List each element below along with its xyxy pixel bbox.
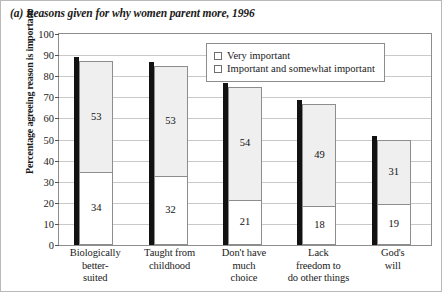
chart-legend: Very important Important and somewhat im…	[206, 43, 385, 82]
bar-stack: 5421	[228, 87, 262, 245]
figure-panel: (a) Reasons given for why women parent m…	[0, 0, 442, 292]
bar-value-label: 32	[165, 205, 176, 216]
bar-stack: 3119	[377, 140, 411, 246]
bar-value-label: 19	[389, 219, 400, 230]
bar-segment-very-important: 21	[228, 201, 262, 245]
y-axis-tick-label: 40	[44, 155, 55, 166]
y-axis-tick-mark	[55, 245, 59, 246]
bar-stack: 5334	[79, 61, 113, 245]
bar-value-label: 31	[389, 167, 400, 178]
y-axis-tick-label: 30	[44, 176, 55, 187]
legend-swatch-icon	[214, 52, 222, 60]
bar-segment-important-and-somewhat: 49	[302, 104, 336, 207]
legend-swatch-icon	[214, 65, 222, 73]
legend-item-important-and-somewhat: Important and somewhat important	[214, 63, 375, 75]
bar-segment-very-important: 18	[302, 207, 336, 245]
bar-group: 5332	[154, 66, 188, 245]
bar-segment-important-and-somewhat: 31	[377, 140, 411, 205]
bar-value-label: 21	[240, 217, 251, 228]
y-axis-tick-label: 10	[44, 218, 55, 229]
x-axis-category-label: Don't havemuchchoice	[207, 247, 281, 285]
legend-item-very-important: Very important	[214, 50, 375, 62]
y-axis-tick-label: 70	[44, 92, 55, 103]
y-axis-tick-label: 50	[44, 134, 55, 145]
bar-group: 5334	[79, 61, 113, 245]
y-axis-tick-label: 100	[38, 29, 54, 40]
bar-segment-very-important: 19	[377, 205, 411, 245]
y-axis-title: Percentage agreeing reason is important	[24, 0, 36, 187]
y-axis-tick-label: 60	[44, 113, 55, 124]
x-axis-category-label: Lackfreedom todo other things	[281, 247, 355, 285]
y-axis-tick-label: 90	[44, 50, 55, 61]
legend-label: Very important	[227, 50, 290, 62]
bar-value-label: 49	[314, 150, 325, 161]
bar-segment-important-and-somewhat: 54	[228, 87, 262, 201]
y-axis-tick-label: 20	[44, 197, 55, 208]
x-axis-labels: Biologicallybetter-suitedTaught fromchil…	[58, 247, 432, 291]
figure-caption: (a) Reasons given for why women parent m…	[10, 7, 255, 19]
x-axis-category-label: Taught fromchildhood	[132, 247, 206, 272]
bar-stack: 4918	[302, 104, 336, 245]
bar-segment-very-important: 32	[154, 177, 188, 245]
legend-label: Important and somewhat important	[227, 63, 375, 75]
bar-value-label: 34	[91, 203, 102, 214]
bar-group: 3119	[377, 140, 411, 246]
bar-segment-very-important: 34	[79, 173, 113, 245]
y-axis-tick-label: 80	[44, 71, 55, 82]
bar-value-label: 54	[240, 138, 251, 149]
bar-group: 4918	[302, 104, 336, 245]
bar-value-label: 18	[314, 220, 325, 231]
bar-segment-important-and-somewhat: 53	[154, 66, 188, 178]
bar-segment-important-and-somewhat: 53	[79, 61, 113, 173]
bar-value-label: 53	[165, 116, 176, 127]
x-axis-category-label: God'swill	[356, 247, 430, 272]
y-axis-tick-label: 0	[49, 240, 54, 251]
x-axis-category-label: Biologicallybetter-suited	[58, 247, 132, 285]
bar-value-label: 53	[91, 112, 102, 123]
bar-stack: 5332	[154, 66, 188, 245]
plot-area: 0102030405060708090100 53345332542149183…	[58, 33, 432, 246]
bar-group: 5421	[228, 87, 262, 245]
